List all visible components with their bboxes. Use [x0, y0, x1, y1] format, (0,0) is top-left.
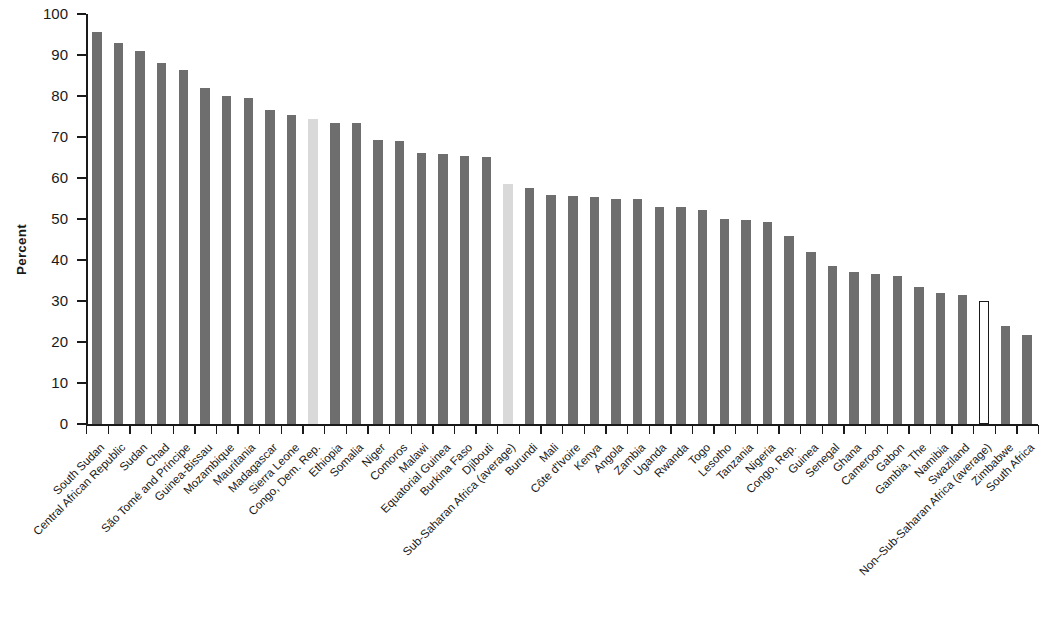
- x-axis-tick: [324, 425, 325, 434]
- x-axis-tick: [129, 425, 130, 434]
- x-axis-tick: [216, 425, 217, 434]
- x-axis-tick: [281, 425, 282, 434]
- x-axis-tick: [151, 425, 152, 434]
- x-axis-tick: [346, 425, 347, 434]
- x-axis-tick: [995, 425, 996, 434]
- x-axis-tick: [735, 425, 736, 434]
- x-axis-tick: [411, 425, 412, 434]
- x-axis-tick: [367, 425, 368, 434]
- y-axis-tick-90: [77, 54, 86, 56]
- x-axis-tick: [562, 425, 563, 434]
- x-axis-tick: [605, 425, 606, 434]
- bar-chart-figure: Percent 0102030405060708090100 South Sud…: [0, 0, 1044, 618]
- x-axis-tick: [302, 425, 303, 434]
- x-axis-tick: [497, 425, 498, 434]
- x-axis-tick: [519, 425, 520, 434]
- y-axis-tick-20: [77, 341, 86, 343]
- x-axis-tick: [432, 425, 433, 434]
- y-axis-tick-80: [77, 95, 86, 97]
- x-axis-tick: [237, 425, 238, 434]
- x-axis-tick: [627, 425, 628, 434]
- x-axis-tick-labels: South SudanCentral African RepublicSudan…: [0, 0, 1044, 618]
- x-axis-tick: [822, 425, 823, 434]
- y-axis-tick-70: [77, 136, 86, 138]
- y-axis-tick-100: [77, 13, 86, 15]
- x-axis-tick: [973, 425, 974, 434]
- x-axis-tick: [454, 425, 455, 434]
- x-axis-tick: [865, 425, 866, 434]
- x-axis-tick: [713, 425, 714, 434]
- x-axis-tick: [86, 425, 87, 434]
- x-axis-tick: [649, 425, 650, 434]
- x-axis-tick: [259, 425, 260, 434]
- x-axis-tick: [951, 425, 952, 434]
- x-axis-tick: [108, 425, 109, 434]
- y-axis-tick-0: [77, 423, 86, 425]
- x-axis-tick: [173, 425, 174, 434]
- x-axis-tick: [584, 425, 585, 434]
- y-axis-tick-60: [77, 177, 86, 179]
- x-axis-tick: [540, 425, 541, 434]
- x-axis-tick: [887, 425, 888, 434]
- x-axis-tick: [843, 425, 844, 434]
- x-axis-tick: [475, 425, 476, 434]
- x-axis-tick: [757, 425, 758, 434]
- y-axis-tick-30: [77, 300, 86, 302]
- y-axis-tick-40: [77, 259, 86, 261]
- x-axis-tick: [800, 425, 801, 434]
- x-axis-tick: [692, 425, 693, 434]
- x-axis-tick: [930, 425, 931, 434]
- x-axis-tick: [778, 425, 779, 434]
- x-axis-tick: [389, 425, 390, 434]
- x-axis-tick: [908, 425, 909, 434]
- y-axis-tick-10: [77, 382, 86, 384]
- x-axis-tick: [1016, 425, 1017, 434]
- x-axis-tick: [670, 425, 671, 434]
- x-axis-tick: [1038, 425, 1039, 434]
- y-axis-tick-50: [77, 218, 86, 220]
- x-axis-tick: [194, 425, 195, 434]
